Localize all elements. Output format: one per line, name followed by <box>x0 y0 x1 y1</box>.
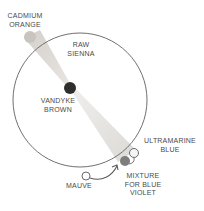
label-line: MIXTURE <box>122 172 164 181</box>
label-mixture: MIXTURE FOR BLUE VIOLET <box>122 172 164 198</box>
vandyke-brown-swatch <box>64 82 76 94</box>
label-cadmium-orange: CADMIUM ORANGE <box>3 12 47 29</box>
label-line: BLUE <box>140 146 200 155</box>
label-raw-sienna: RAW SIENNA <box>63 41 99 58</box>
label-line: RAW <box>63 41 99 50</box>
label-ultramarine-blue: ULTRAMARINE BLUE <box>140 137 200 154</box>
label-mauve: MAUVE <box>62 182 96 191</box>
mixture-swatch <box>120 156 130 166</box>
mauve-to-mixture-arrow-icon <box>90 166 117 179</box>
mauve-swatch <box>82 172 90 180</box>
label-line: BROWN <box>38 106 78 115</box>
ultramarine-blue-swatch <box>130 149 139 158</box>
label-line: VIOLET <box>122 189 164 198</box>
label-line: CADMIUM <box>3 12 47 21</box>
color-wheel-diagram <box>0 0 204 211</box>
complement-wedge <box>70 87 136 162</box>
label-line: MAUVE <box>62 182 96 191</box>
label-line: ULTRAMARINE <box>140 137 200 146</box>
label-line: SIENNA <box>63 50 99 59</box>
label-line: FOR BLUE <box>122 181 164 190</box>
label-vandyke-brown: VANDYKE BROWN <box>38 97 78 114</box>
label-line: VANDYKE <box>38 97 78 106</box>
label-line: ORANGE <box>3 21 47 30</box>
cadmium-orange-swatch <box>24 31 36 43</box>
